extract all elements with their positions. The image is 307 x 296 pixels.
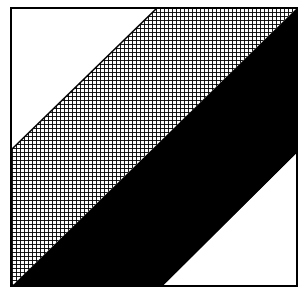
diagonal-bands-diagram [0, 0, 307, 296]
